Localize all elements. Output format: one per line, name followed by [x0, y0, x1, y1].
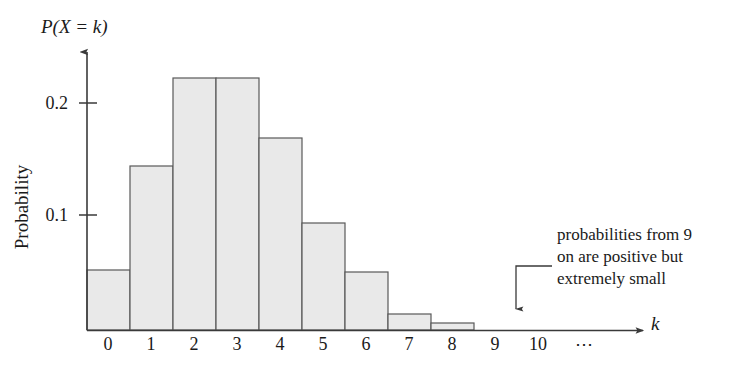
x-tick-label-0: 0 — [86, 334, 130, 355]
annotation-leader-line — [516, 266, 552, 309]
bar-k-0 — [87, 270, 130, 330]
x-tick-label-4: 4 — [258, 334, 302, 355]
tail-annotation-line-1: probabilities from 9 — [557, 224, 747, 246]
y-tick-label-0: 0.2 — [20, 93, 68, 114]
bars-group — [87, 78, 474, 330]
bar-k-1 — [130, 166, 173, 330]
x-tick-label-1: 1 — [129, 334, 173, 355]
tail-annotation: probabilities from 9 on are positive but… — [557, 224, 747, 289]
bar-k-7 — [388, 314, 431, 330]
x-tick-label-10: 10 — [516, 334, 560, 355]
bar-k-5 — [302, 223, 345, 330]
x-tick-label-9: 9 — [473, 334, 517, 355]
y-axis-ticks — [79, 103, 97, 215]
x-axis-title: k — [651, 313, 659, 335]
x-tick-label-ellipsis: ⋯ — [563, 333, 607, 355]
bar-k-8 — [431, 323, 474, 330]
bar-k-4 — [259, 138, 302, 330]
bar-k-6 — [345, 272, 388, 330]
probability-histogram-figure: P(X = k) Probability k 0.2 0.1 0 1 2 3 4… — [0, 0, 749, 380]
tail-annotation-line-3: extremely small — [557, 268, 747, 290]
x-tick-label-5: 5 — [301, 334, 345, 355]
x-tick-label-6: 6 — [344, 334, 388, 355]
x-tick-label-8: 8 — [430, 334, 474, 355]
chart-canvas — [0, 0, 749, 380]
x-tick-label-3: 3 — [215, 334, 259, 355]
y-axis-expression-label: P(X = k) — [41, 16, 108, 38]
x-tick-label-2: 2 — [172, 334, 216, 355]
tail-annotation-line-2: on are positive but — [557, 246, 747, 268]
bar-k-2 — [173, 78, 216, 330]
bar-k-3 — [216, 78, 259, 330]
y-tick-label-1: 0.1 — [20, 205, 68, 226]
x-tick-label-7: 7 — [387, 334, 431, 355]
